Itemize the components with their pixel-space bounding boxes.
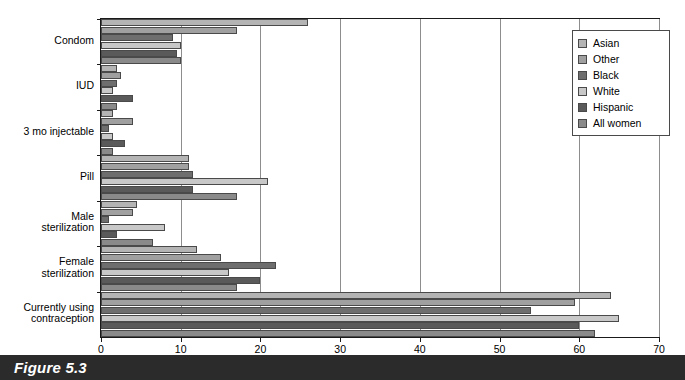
bar-row bbox=[101, 277, 659, 284]
figure-caption-label: Figure 5.3 bbox=[14, 359, 87, 376]
bar bbox=[101, 224, 165, 231]
bar bbox=[101, 27, 237, 34]
x-axis-tick-label: 60 bbox=[573, 343, 585, 355]
bar bbox=[101, 330, 595, 337]
x-axis-tick-label: 50 bbox=[494, 343, 506, 355]
legend-swatch-icon bbox=[578, 39, 587, 48]
bar bbox=[101, 87, 113, 94]
bar bbox=[101, 57, 181, 64]
bar-group bbox=[101, 155, 659, 200]
bar-row bbox=[101, 163, 659, 170]
bar-row bbox=[101, 224, 659, 231]
bar bbox=[101, 19, 308, 26]
bar bbox=[101, 95, 133, 102]
legend-swatch-icon bbox=[578, 55, 587, 64]
bar bbox=[101, 65, 117, 72]
bar-row bbox=[101, 201, 659, 208]
bar-row bbox=[101, 193, 659, 200]
bar-row bbox=[101, 322, 659, 329]
y-axis-category-label: IUD bbox=[0, 80, 94, 92]
x-axis-tick-label: 30 bbox=[334, 343, 346, 355]
legend-item-label: Asian bbox=[593, 37, 619, 49]
bar-row bbox=[101, 269, 659, 276]
legend-item-label: All women bbox=[593, 117, 641, 129]
bar bbox=[101, 254, 221, 261]
legend-item-label: Other bbox=[593, 53, 619, 65]
bar bbox=[101, 284, 237, 291]
bar-row bbox=[101, 254, 659, 261]
x-axis-tick-label: 0 bbox=[98, 343, 104, 355]
x-axis-tick bbox=[260, 338, 261, 342]
y-axis-category-label: Male sterilization bbox=[0, 211, 94, 234]
bar bbox=[101, 239, 153, 246]
legend-item-white[interactable]: White bbox=[578, 83, 664, 99]
bar bbox=[101, 231, 117, 238]
bar bbox=[101, 307, 531, 314]
x-axis-tick bbox=[181, 338, 182, 342]
x-axis-tick-label: 70 bbox=[653, 343, 665, 355]
bar bbox=[101, 315, 619, 322]
legend-swatch-icon bbox=[578, 71, 587, 80]
bar-row bbox=[101, 209, 659, 216]
x-axis-tick bbox=[659, 338, 660, 342]
bar-group bbox=[101, 292, 659, 337]
chart-legend: AsianOtherBlackWhiteHispanicAll women bbox=[572, 30, 670, 136]
x-axis-tick bbox=[579, 338, 580, 342]
bar-row bbox=[101, 262, 659, 269]
bar-row bbox=[101, 231, 659, 238]
bar bbox=[101, 155, 189, 162]
bar-row bbox=[101, 178, 659, 185]
legend-item-asian[interactable]: Asian bbox=[578, 35, 664, 51]
bar bbox=[101, 42, 181, 49]
figure-container: CondomIUD3 mo injectablePillMale sterili… bbox=[0, 0, 685, 380]
bar bbox=[101, 178, 268, 185]
bar bbox=[101, 133, 113, 140]
bar bbox=[101, 216, 109, 223]
bar-row bbox=[101, 246, 659, 253]
legend-item-label: Hispanic bbox=[593, 101, 633, 113]
bar bbox=[101, 110, 113, 117]
bar bbox=[101, 186, 193, 193]
bar-row bbox=[101, 315, 659, 322]
bar bbox=[101, 299, 575, 306]
bar bbox=[101, 209, 133, 216]
bar bbox=[101, 34, 173, 41]
bar-row bbox=[101, 216, 659, 223]
bar-row bbox=[101, 299, 659, 306]
bar bbox=[101, 118, 133, 125]
bar bbox=[101, 125, 109, 132]
bar bbox=[101, 246, 197, 253]
x-axis-tick bbox=[500, 338, 501, 342]
bar-row bbox=[101, 330, 659, 337]
legend-swatch-icon bbox=[578, 87, 587, 96]
bar bbox=[101, 277, 260, 284]
bar bbox=[101, 171, 193, 178]
bar-row bbox=[101, 148, 659, 155]
bar bbox=[101, 50, 177, 57]
x-axis-tick bbox=[340, 338, 341, 342]
bar-row bbox=[101, 171, 659, 178]
bar bbox=[101, 201, 137, 208]
legend-item-hispanic[interactable]: Hispanic bbox=[578, 99, 664, 115]
bar-row bbox=[101, 155, 659, 162]
x-axis-tick bbox=[101, 338, 102, 342]
bar bbox=[101, 292, 611, 299]
y-axis-category-label: Pill bbox=[0, 171, 94, 183]
x-axis-tick-label: 40 bbox=[414, 343, 426, 355]
legend-swatch-icon bbox=[578, 103, 587, 112]
bar bbox=[101, 80, 117, 87]
legend-item-label: White bbox=[593, 85, 620, 97]
bar bbox=[101, 262, 276, 269]
y-axis-category-label: Condom bbox=[0, 35, 94, 47]
legend-item-other[interactable]: Other bbox=[578, 51, 664, 67]
bar-row bbox=[101, 186, 659, 193]
bar bbox=[101, 269, 229, 276]
bar-row bbox=[101, 292, 659, 299]
bar-row bbox=[101, 140, 659, 147]
x-axis-tick-label: 20 bbox=[255, 343, 267, 355]
legend-swatch-icon bbox=[578, 119, 587, 128]
legend-item-black[interactable]: Black bbox=[578, 67, 664, 83]
bar bbox=[101, 322, 579, 329]
bar-group bbox=[101, 201, 659, 246]
legend-item-all-women[interactable]: All women bbox=[578, 115, 664, 131]
